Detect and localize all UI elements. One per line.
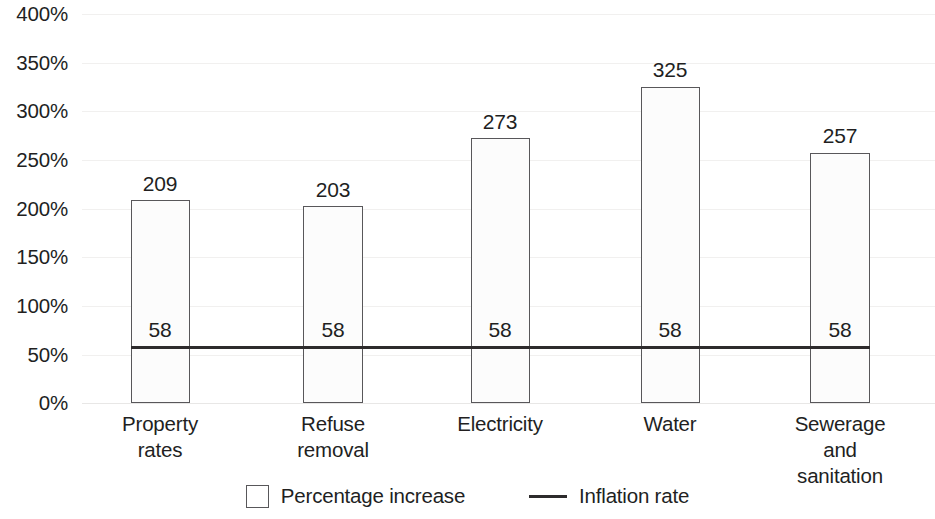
bar-value-label: 325 — [653, 58, 687, 82]
y-tick-label: 0% — [39, 391, 68, 415]
y-tick-label: 50% — [28, 343, 68, 367]
plot-area: 209 203 273 325 257 58 58 58 58 58 Prope… — [78, 0, 935, 519]
bar-water[interactable] — [641, 87, 700, 403]
y-tick-label: 400% — [16, 2, 68, 26]
x-tick-label-electricity: Electricity — [457, 411, 543, 437]
legend-label: Inflation rate — [579, 484, 689, 508]
legend-item-percentage-increase[interactable]: Percentage increase — [246, 484, 465, 508]
x-tick-label-water: Water — [644, 411, 697, 437]
x-axis-baseline — [82, 403, 935, 404]
chart-legend: Percentage increase Inflation rate — [0, 484, 935, 508]
inflation-value-label: 58 — [322, 318, 345, 342]
bar-value-label: 257 — [823, 124, 857, 148]
x-tick-label-sewerage-sanitation: Sewerage and sanitation — [793, 411, 888, 489]
bar-value-label: 209 — [143, 172, 177, 196]
y-tick-label: 250% — [16, 148, 68, 172]
bar-electricity[interactable] — [471, 138, 530, 403]
bar-property-rates[interactable] — [131, 200, 190, 403]
inflation-value-label: 58 — [149, 318, 172, 342]
bar-value-label: 203 — [316, 178, 350, 202]
gridline — [82, 63, 935, 64]
legend-label: Percentage increase — [281, 484, 465, 508]
y-tick-label: 150% — [16, 245, 68, 269]
line-icon — [529, 495, 567, 498]
inflation-value-label: 58 — [489, 318, 512, 342]
gridline — [82, 14, 935, 15]
y-tick-label: 350% — [16, 51, 68, 75]
y-axis: 400% 350% 300% 250% 200% 150% 100% 50% 0… — [0, 0, 78, 519]
bar-sewerage-sanitation[interactable] — [810, 153, 870, 403]
inflation-value-label: 58 — [659, 318, 682, 342]
inflation-value-label: 58 — [829, 318, 852, 342]
y-tick-label: 200% — [16, 197, 68, 221]
legend-item-inflation-rate[interactable]: Inflation rate — [529, 484, 689, 508]
x-tick-label-refuse-removal: Refuse removal — [297, 411, 369, 463]
square-outline-icon — [246, 485, 269, 508]
bar-value-label: 273 — [483, 110, 517, 134]
x-tick-label-property-rates: Property rates — [122, 411, 198, 463]
inflation-rate-line[interactable] — [131, 346, 870, 349]
chart-container: 400% 350% 300% 250% 200% 150% 100% 50% 0… — [0, 0, 935, 519]
y-tick-label: 300% — [16, 99, 68, 123]
y-tick-label: 100% — [16, 294, 68, 318]
bar-refuse-removal[interactable] — [303, 206, 363, 403]
